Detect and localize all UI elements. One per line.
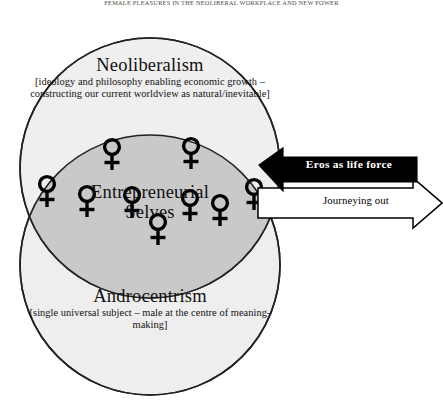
journeying-out-label: Journeying out [300, 194, 412, 206]
venn-diagram: Neoliberalism [ideology and philosophy e… [0, 0, 443, 417]
arrows-graphic [0, 0, 443, 417]
diagram-page: FEMALE PLEASURES IN THE NEOLIBERAL WORKP… [0, 0, 443, 417]
eros-as-life-force-label: Eros as life force [286, 158, 412, 170]
